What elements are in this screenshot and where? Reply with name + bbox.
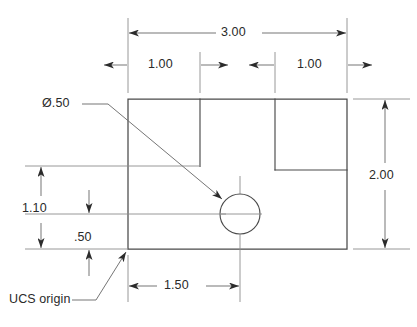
drawing-canvas: 3.00 1.00 1.00 2.00 1.10 .50 1.50 Ø.50 U… — [0, 0, 417, 327]
dim-label-1-10: 1.10 — [22, 202, 47, 215]
extension-lines — [25, 18, 410, 302]
dim-label-diameter: Ø.50 — [42, 97, 70, 110]
dim-label-1-50: 1.50 — [164, 279, 189, 292]
dim-label-3-00: 3.00 — [221, 26, 246, 39]
technical-drawing-svg — [0, 0, 417, 327]
diameter-leader-line — [82, 104, 222, 199]
ucs-origin-label: UCS origin — [9, 293, 70, 306]
dim-label-1-00-right: 1.00 — [297, 58, 322, 71]
part-outline — [128, 99, 347, 249]
dim-label-0-50: .50 — [74, 231, 92, 244]
ucs-origin-leader-line — [72, 252, 126, 300]
dim-label-2-00: 2.00 — [369, 169, 394, 182]
dim-label-1-00-left: 1.00 — [148, 58, 173, 71]
notch-lines — [200, 99, 347, 170]
